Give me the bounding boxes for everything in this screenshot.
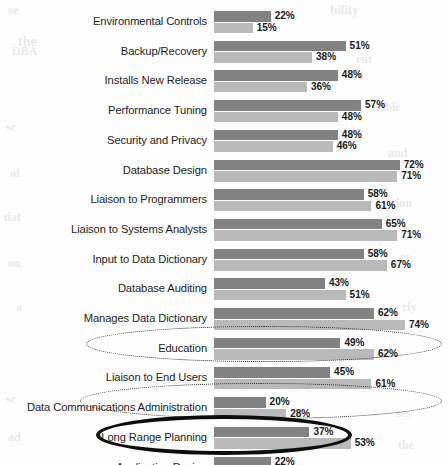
chart-row: Data Communications Administration20%28% — [0, 394, 448, 424]
category-label: Environmental Controls — [0, 15, 207, 27]
bar-group: 57%48% — [214, 100, 448, 124]
bar-chart-figure: setheDBAscofdatonascadbilityentrsibleand… — [0, 0, 448, 465]
chart-row: Environmental Controls22%15% — [0, 8, 448, 38]
bar-secondary — [214, 320, 405, 331]
chart-row: Manages Data Dictionary62%74% — [0, 305, 448, 335]
bar-secondary — [214, 230, 397, 241]
bar-value-label: 45% — [334, 367, 354, 378]
bar-secondary — [214, 379, 371, 390]
chart-row: Installs New Release48%36% — [0, 67, 448, 97]
bar-value-label: 51% — [350, 41, 370, 52]
bar-group: 48%36% — [214, 70, 448, 94]
bar-value-label: 48% — [342, 70, 362, 81]
bar-value-label: 15% — [257, 23, 277, 34]
bar-primary — [214, 70, 338, 81]
category-label: Backup/Recovery — [0, 45, 207, 57]
bar-secondary — [214, 171, 397, 182]
bar-secondary — [214, 349, 374, 360]
bar-value-label: 37% — [313, 427, 333, 438]
bar-value-label: 62% — [378, 349, 398, 360]
bar-secondary — [214, 52, 312, 63]
category-label: Manages Data Dictionary — [0, 312, 207, 324]
bar-value-label: 58% — [368, 189, 388, 200]
bar-primary — [214, 219, 382, 230]
category-label: Liaison to End Users — [0, 371, 207, 383]
bar-group: 22%38% — [214, 457, 448, 465]
chart-row: Education49%62% — [0, 335, 448, 365]
bar-secondary — [214, 260, 387, 271]
bar-secondary — [214, 141, 333, 152]
category-label: Application Design — [0, 461, 207, 465]
chart-row: Liaison to End Users45%61% — [0, 364, 448, 394]
bar-value-label: 48% — [342, 130, 362, 141]
chart-row: Input to Data Dictionary58%67% — [0, 246, 448, 276]
bar-value-label: 74% — [409, 320, 429, 331]
category-label: Data Communications Administration — [0, 401, 207, 413]
bar-primary — [214, 308, 374, 319]
bar-value-label: 71% — [401, 230, 421, 241]
chart-row: Security and Privacy48%46% — [0, 127, 448, 157]
chart-row: Application Design22%38% — [0, 454, 448, 465]
bar-group: 65%71% — [214, 219, 448, 243]
bar-value-label: 67% — [391, 260, 411, 271]
category-label: Long Range Planning — [0, 431, 207, 443]
bar-primary — [214, 278, 325, 289]
category-label: Installs New Release — [0, 74, 207, 86]
bar-secondary — [214, 290, 346, 301]
bar-value-label: 62% — [378, 308, 398, 319]
bar-value-label: 57% — [365, 100, 385, 111]
bar-primary — [214, 189, 364, 200]
bar-secondary — [214, 409, 286, 420]
bar-group: 49%62% — [214, 338, 448, 362]
bar-value-label: 53% — [355, 438, 375, 449]
bar-primary — [214, 11, 271, 22]
chart-row: Performance Tuning57%48% — [0, 97, 448, 127]
bar-primary — [214, 338, 340, 349]
bar-value-label: 49% — [344, 338, 364, 349]
bar-primary — [214, 367, 330, 378]
chart-row: Liaison to Programmers58%61% — [0, 186, 448, 216]
bar-group: 51%38% — [214, 41, 448, 65]
bar-value-label: 61% — [375, 201, 395, 212]
bar-primary — [214, 457, 271, 465]
bar-primary — [214, 160, 400, 171]
bar-primary — [214, 130, 338, 141]
bar-group: 37%53% — [214, 427, 448, 451]
bar-value-label: 58% — [368, 249, 388, 260]
bar-value-label: 20% — [270, 397, 290, 408]
bar-primary — [214, 41, 346, 52]
bar-primary — [214, 100, 361, 111]
bar-value-label: 22% — [275, 457, 295, 465]
bar-secondary — [214, 23, 253, 34]
bar-group: 43%51% — [214, 278, 448, 302]
bar-group: 72%71% — [214, 160, 448, 184]
bar-primary — [214, 427, 309, 438]
bar-group: 48%46% — [214, 130, 448, 154]
category-label: Education — [0, 342, 207, 354]
bar-value-label: 36% — [311, 82, 331, 93]
bar-value-label: 22% — [275, 11, 295, 22]
chart-row: Database Auditing43%51% — [0, 275, 448, 305]
bar-value-label: 72% — [404, 160, 424, 171]
category-label: Liaison to Programmers — [0, 193, 207, 205]
bar-value-label: 65% — [386, 219, 406, 230]
bar-secondary — [214, 201, 371, 212]
bar-secondary — [214, 112, 338, 123]
bar-group: 45%61% — [214, 367, 448, 391]
bar-value-label: 61% — [375, 379, 395, 390]
bar-value-label: 28% — [290, 409, 310, 420]
bar-rows-container: Environmental Controls22%15%Backup/Recov… — [0, 0, 448, 465]
bar-value-label: 43% — [329, 278, 349, 289]
bar-secondary — [214, 82, 307, 93]
bar-value-label: 51% — [350, 290, 370, 301]
category-label: Performance Tuning — [0, 104, 207, 116]
category-label: Security and Privacy — [0, 134, 207, 146]
chart-row: Liaison to Systems Analysts65%71% — [0, 216, 448, 246]
bar-value-label: 71% — [401, 171, 421, 182]
bar-primary — [214, 397, 266, 408]
bar-group: 20%28% — [214, 397, 448, 421]
category-label: Database Auditing — [0, 282, 207, 294]
category-label: Input to Data Dictionary — [0, 253, 207, 265]
bar-group: 62%74% — [214, 308, 448, 332]
bar-group: 58%67% — [214, 249, 448, 273]
